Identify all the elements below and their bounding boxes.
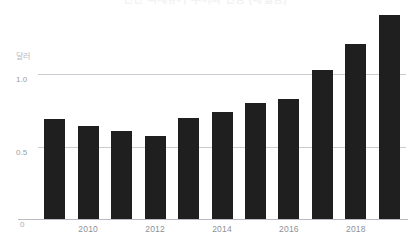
x-tick-label-2010: 2010 xyxy=(78,224,98,234)
x-tick-label-2018: 2018 xyxy=(346,224,366,234)
bar-2016[interactable] xyxy=(278,99,299,219)
bar-2010[interactable] xyxy=(78,126,99,219)
bar-2019[interactable] xyxy=(379,15,400,219)
bar-2014[interactable] xyxy=(212,112,233,219)
x-tick-label-2012: 2012 xyxy=(145,224,165,234)
bar-2009[interactable] xyxy=(44,119,65,219)
bar-2012[interactable] xyxy=(145,136,166,219)
x-axis-tick-labels: 20102012201420162018 xyxy=(0,224,410,238)
bar-2011[interactable] xyxy=(111,131,132,219)
bar-2015[interactable] xyxy=(245,103,266,219)
x-axis-line xyxy=(18,219,408,220)
y-tick-label-0-5: 0.5 xyxy=(16,148,27,157)
y-tick-label-1: 1.0 xyxy=(16,75,27,84)
bar-2018[interactable] xyxy=(345,44,366,219)
bar-chart-figure: 연간 국제유가 추이와 전망 (배럴당) 달러 00.51.0 20102012… xyxy=(0,0,410,247)
bar-2013[interactable] xyxy=(178,118,199,220)
y-axis-unit-label: 달러 xyxy=(16,50,30,61)
bars-group xyxy=(38,0,406,219)
x-tick-label-2016: 2016 xyxy=(279,224,299,234)
bar-2017[interactable] xyxy=(312,70,333,219)
x-tick-label-2014: 2014 xyxy=(212,224,232,234)
